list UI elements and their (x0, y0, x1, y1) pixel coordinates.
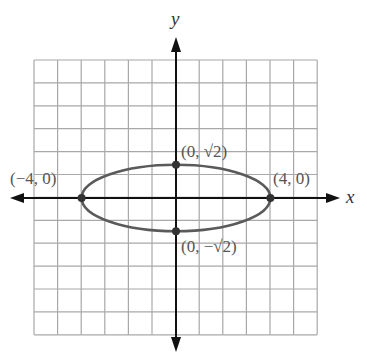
ellipse-graph: y x (−4, 0) (4, 0) (0, √2) (0, −√2) (0, 0, 367, 364)
y-axis-label: y (169, 8, 180, 29)
x-axis-left-arrow-icon (10, 193, 24, 203)
point-top-covertex (172, 161, 180, 169)
y-axis-up-arrow-icon (171, 37, 181, 52)
point-label-left: (−4, 0) (10, 169, 56, 188)
x-axis-right-arrow-icon (326, 193, 340, 203)
point-right-vertex (266, 194, 274, 202)
point-label-right: (4, 0) (273, 169, 310, 188)
x-axis-label: x (345, 186, 355, 207)
point-bottom-covertex (172, 227, 180, 235)
y-axis-down-arrow-icon (171, 337, 181, 352)
point-label-top: (0, √2) (181, 142, 227, 161)
point-left-vertex (78, 194, 86, 202)
point-label-bottom: (0, −√2) (181, 237, 237, 256)
